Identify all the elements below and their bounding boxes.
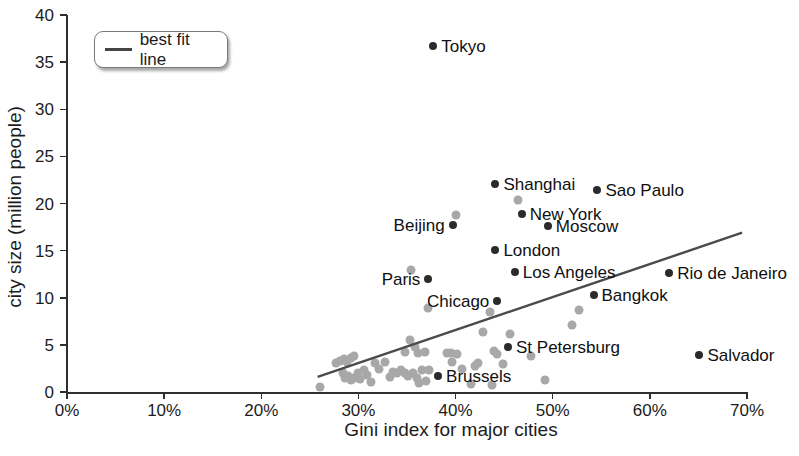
scatter-point-labeled bbox=[491, 180, 499, 188]
city-label: St Petersburg bbox=[516, 338, 620, 355]
y-tick bbox=[60, 14, 67, 16]
y-tick-label: 5 bbox=[14, 336, 54, 353]
scatter-point-unlabeled bbox=[349, 352, 358, 361]
y-tick-label: 15 bbox=[14, 242, 54, 259]
scatter-point-labeled bbox=[429, 42, 437, 50]
figure: city size (million people) Gini index fo… bbox=[0, 0, 799, 456]
legend-label: best fit line bbox=[140, 30, 217, 70]
y-tick bbox=[60, 109, 67, 111]
scatter-point-labeled bbox=[504, 343, 512, 351]
scatter-point-unlabeled bbox=[451, 210, 460, 219]
x-tick-label: 70% bbox=[730, 402, 764, 419]
scatter-point-labeled bbox=[491, 246, 499, 254]
scatter-point-unlabeled bbox=[574, 306, 583, 315]
scatter-point-unlabeled bbox=[513, 195, 522, 204]
y-tick bbox=[60, 391, 67, 393]
scatter-point-unlabeled bbox=[421, 348, 430, 357]
scatter-point-labeled bbox=[665, 269, 673, 277]
y-tick-label: 35 bbox=[14, 54, 54, 71]
y-axis-line bbox=[66, 15, 68, 394]
scatter-point-labeled bbox=[518, 210, 526, 218]
x-tick bbox=[552, 392, 554, 399]
scatter-point-unlabeled bbox=[413, 349, 422, 358]
scatter-point-labeled bbox=[449, 221, 457, 229]
scatter-point-labeled bbox=[424, 275, 432, 283]
x-tick-label: 10% bbox=[147, 402, 181, 419]
city-label: Los Angeles bbox=[523, 264, 616, 281]
scatter-point-unlabeled bbox=[478, 327, 487, 336]
scatter-point-unlabeled bbox=[422, 376, 431, 385]
x-axis-title: Gini index for major cities bbox=[344, 419, 557, 441]
y-tick bbox=[60, 344, 67, 346]
x-tick bbox=[261, 392, 263, 399]
city-label: Chicago bbox=[427, 292, 489, 309]
scatter-point-unlabeled bbox=[425, 366, 434, 375]
x-tick bbox=[66, 392, 68, 399]
scatter-point-labeled bbox=[544, 222, 552, 230]
scatter-point-unlabeled bbox=[315, 383, 324, 392]
y-tick-label: 20 bbox=[14, 195, 54, 212]
scatter-point-unlabeled bbox=[493, 350, 502, 359]
scatter-point-labeled bbox=[695, 351, 703, 359]
y-tick bbox=[60, 156, 67, 158]
city-label: Bangkok bbox=[602, 286, 668, 303]
scatter-point-labeled bbox=[434, 372, 442, 380]
scatter-point-unlabeled bbox=[452, 350, 461, 359]
x-tick-label: 20% bbox=[244, 402, 278, 419]
scatter-point-labeled bbox=[511, 268, 519, 276]
legend: best fit line bbox=[94, 31, 228, 68]
scatter-point-unlabeled bbox=[417, 366, 426, 375]
x-tick bbox=[455, 392, 457, 399]
x-tick bbox=[746, 392, 748, 399]
scatter-point-unlabeled bbox=[540, 375, 549, 384]
x-axis-line bbox=[66, 392, 748, 394]
city-label: Brussels bbox=[446, 367, 511, 384]
city-label: Moscow bbox=[556, 218, 618, 235]
city-label: Sao Paulo bbox=[605, 182, 683, 199]
y-tick bbox=[60, 203, 67, 205]
y-tick bbox=[60, 297, 67, 299]
city-label: Paris bbox=[382, 270, 421, 287]
y-tick-label: 40 bbox=[14, 7, 54, 24]
city-label: Shanghai bbox=[503, 175, 575, 192]
y-tick bbox=[60, 61, 67, 63]
scatter-point-unlabeled bbox=[367, 377, 376, 386]
city-label: Tokyo bbox=[441, 38, 485, 55]
scatter-point-unlabeled bbox=[568, 321, 577, 330]
scatter-point-unlabeled bbox=[505, 329, 514, 338]
scatter-point-labeled bbox=[593, 186, 601, 194]
best-fit-line-sample-icon bbox=[105, 48, 132, 51]
scatter-point-unlabeled bbox=[401, 348, 410, 357]
city-label: London bbox=[503, 241, 560, 258]
scatter-point-labeled bbox=[590, 291, 598, 299]
x-tick-label: 0% bbox=[55, 402, 80, 419]
x-tick-label: 60% bbox=[633, 402, 667, 419]
y-tick-label: 30 bbox=[14, 101, 54, 118]
city-label: Beijing bbox=[394, 217, 445, 234]
city-label: Salvador bbox=[707, 347, 774, 364]
scatter-point-unlabeled bbox=[374, 365, 383, 374]
x-tick bbox=[358, 392, 360, 399]
city-label: Rio de Janeiro bbox=[677, 265, 787, 282]
x-tick-label: 40% bbox=[439, 402, 473, 419]
x-tick-label: 30% bbox=[341, 402, 375, 419]
x-tick bbox=[649, 392, 651, 399]
x-tick-label: 50% bbox=[536, 402, 570, 419]
y-tick-label: 10 bbox=[14, 289, 54, 306]
y-tick-label: 25 bbox=[14, 148, 54, 165]
y-tick-label: 0 bbox=[14, 384, 54, 401]
y-tick bbox=[60, 250, 67, 252]
scatter-point-labeled bbox=[493, 297, 501, 305]
x-tick bbox=[163, 392, 165, 399]
scatter-point-unlabeled bbox=[380, 357, 389, 366]
